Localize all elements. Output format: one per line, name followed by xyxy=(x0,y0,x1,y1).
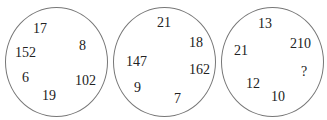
circle-number: 210 xyxy=(290,37,311,51)
circle-number: 102 xyxy=(75,74,96,88)
circle-number: 21 xyxy=(157,16,171,30)
circle-number: 147 xyxy=(126,55,147,69)
circle-number: 12 xyxy=(246,77,260,91)
circle-number: 13 xyxy=(258,17,272,31)
circle-number: 18 xyxy=(189,36,203,50)
circle-1 xyxy=(5,7,108,117)
circle-number: 6 xyxy=(22,71,29,85)
circle-number: 19 xyxy=(42,89,56,103)
circle-number: 17 xyxy=(33,22,47,36)
circle-number: 9 xyxy=(134,81,141,95)
circle-number: 10 xyxy=(271,90,285,104)
circle-number: 21 xyxy=(234,44,248,58)
unknown-value-question-mark: ? xyxy=(301,65,307,79)
circle-number: 7 xyxy=(174,92,181,106)
circle-number: 152 xyxy=(15,46,36,60)
circle-number: 8 xyxy=(79,39,86,53)
circle-number: 162 xyxy=(189,63,210,77)
